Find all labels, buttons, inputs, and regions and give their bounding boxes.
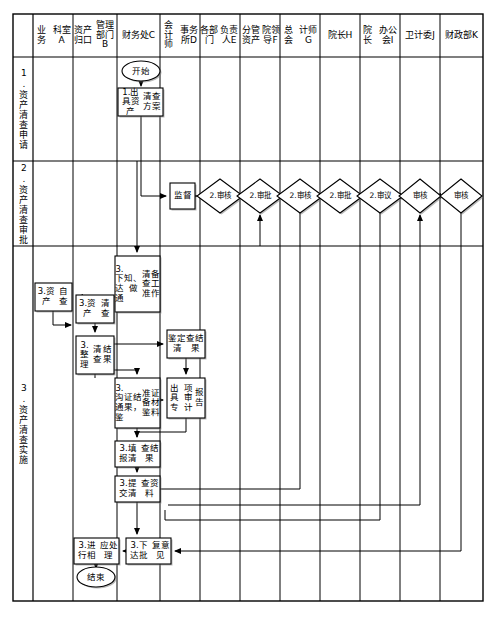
column-header-D: 会计师事务所D (160, 16, 200, 55)
deliberate-h-label[interactable]: 2.审议 (357, 188, 403, 204)
end-label[interactable]: 结束 (77, 570, 115, 584)
appraise-results-label[interactable]: 鉴定清查结果 (167, 330, 205, 358)
issue-plan-label[interactable]: 1.出具资产清查方案 (118, 88, 163, 116)
fill-results-label[interactable]: 3.填报清查结果 (115, 441, 160, 467)
self-check-label[interactable]: 3.资产自查 (35, 283, 72, 311)
shape-layer (35, 61, 484, 589)
verify-k-label[interactable]: 审核 (440, 188, 482, 204)
supervise-label[interactable]: 监督 (170, 183, 195, 209)
notify-prepare-label[interactable]: 3.下达通知、做清查准备工作 (115, 256, 160, 312)
audit-report-label[interactable]: 出具专项审计报告 (167, 378, 205, 418)
flowchart-canvas (0, 0, 495, 621)
handle-accordingly-label[interactable]: 3.进行相应处理 (74, 538, 119, 564)
column-header-K: 财政部K (440, 16, 483, 55)
row-header-2: 2.资产清查审批 (13, 161, 33, 246)
flowchart-page: 业务科室A资产归口管理部门B财务处C会计师事务所D各部门负责人E分管资产院领导F… (0, 0, 495, 621)
issue-reply-label[interactable]: 3.下达批复意见 (126, 538, 171, 564)
column-header-C: 财务处C (117, 16, 160, 55)
column-header-B: 资产归口管理部门B (73, 16, 117, 55)
column-header-G: 总会计师G (280, 16, 320, 55)
column-header-E: 各部门负责人E (200, 16, 240, 55)
asset-check-label[interactable]: 3.资产清查 (76, 295, 114, 323)
row-header-1: 1.资产清查申请 (13, 57, 33, 161)
column-header-I: 院长办公会I (360, 16, 400, 55)
column-header-F: 分管资产院领导F (240, 16, 280, 55)
row-header-3: 3.资产清查实施 (13, 246, 33, 601)
submit-materials-label[interactable]: 3.提交清查资料 (115, 476, 160, 502)
column-header-A: 业务科室A (33, 16, 73, 55)
verify-j-label[interactable]: 审核 (399, 188, 441, 204)
column-header-J: 卫计委J (400, 16, 440, 55)
column-header-H: 院长H (320, 16, 360, 55)
communicate-materials-label[interactable]: 3.沟通鉴证结果，准备鉴证材料 (115, 378, 160, 428)
sort-results-label[interactable]: 3.整理清查结果 (76, 336, 114, 374)
start-label[interactable]: 开始 (122, 64, 160, 78)
